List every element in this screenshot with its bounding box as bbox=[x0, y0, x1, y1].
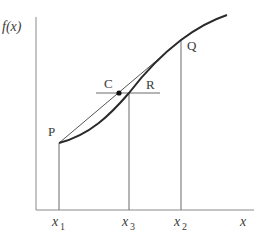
point-r-label: R bbox=[146, 77, 155, 92]
x1-subscript: 1 bbox=[60, 221, 65, 232]
x2-subscript: 2 bbox=[182, 221, 187, 232]
function-diagram: f(x) P C R Q x 1 x 3 x 2 x bbox=[0, 0, 264, 245]
x3-subscript: 3 bbox=[130, 221, 135, 232]
point-q-label: Q bbox=[187, 38, 197, 53]
point-c-marker bbox=[116, 90, 121, 95]
point-p-label: P bbox=[48, 124, 55, 139]
x3-label: x bbox=[121, 214, 129, 229]
y-axis-label: f(x) bbox=[2, 19, 22, 35]
x-axis-label: x bbox=[239, 214, 247, 229]
point-c-label: C bbox=[104, 76, 113, 91]
function-curve bbox=[59, 15, 227, 143]
x2-label: x bbox=[173, 214, 181, 229]
x1-label: x bbox=[51, 214, 59, 229]
